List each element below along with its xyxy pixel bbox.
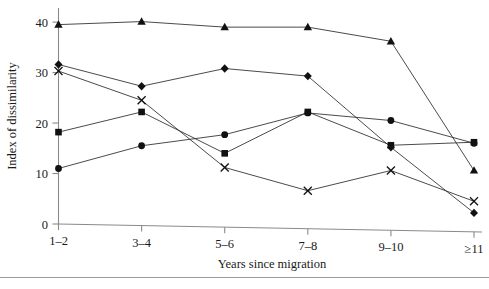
series-diamond-marker — [470, 209, 478, 217]
figure-container: 010203040 1–23–45–67–89–10≥11 Index of d… — [0, 0, 489, 289]
series-square-marker — [388, 142, 395, 149]
x-tick-label: ≥11 — [465, 242, 484, 256]
series-triangle-marker — [137, 17, 145, 24]
y-tick-label: 10 — [36, 167, 49, 181]
series-circle-marker — [138, 142, 145, 149]
y-tick-label: 40 — [36, 16, 49, 30]
x-axis-title: Years since migration — [218, 257, 327, 271]
y-tick-labels: 010203040 — [36, 16, 49, 232]
series-triangle-marker — [54, 20, 62, 27]
series-triangle-marker — [470, 166, 478, 173]
series-circle-marker — [221, 131, 228, 138]
x-tick-label: 9–10 — [378, 240, 403, 254]
series-circle-line — [59, 113, 475, 169]
series-circle-marker — [304, 110, 311, 117]
series-triangle-line — [59, 22, 475, 171]
series-square-line — [59, 112, 475, 153]
y-axis-title: Index of dissimilarity — [5, 61, 19, 169]
series-circle-marker — [388, 117, 395, 124]
y-tick-label: 30 — [36, 66, 49, 80]
series-square-marker — [55, 129, 62, 136]
line-chart: 010203040 1–23–45–67–89–10≥11 Index of d… — [0, 0, 489, 289]
y-tick-label: 20 — [36, 117, 49, 131]
x-tick-label: 7–8 — [298, 239, 317, 253]
x-tick-label: 3–4 — [132, 236, 152, 250]
series-lines-group — [59, 22, 475, 213]
series-triangle-marker — [304, 23, 312, 30]
caption-divider — [0, 277, 489, 278]
series-cross-marker — [221, 163, 229, 171]
series-diamond-marker — [138, 82, 146, 90]
series-square-marker — [221, 150, 228, 157]
x-axis-line — [59, 224, 483, 232]
series-circle-marker — [55, 165, 62, 172]
x-tick-labels: 1–23–45–67–89–10≥11 — [49, 234, 483, 256]
series-square-marker — [138, 109, 145, 116]
series-circle-marker — [471, 140, 478, 147]
caption-fragment — [2, 279, 302, 289]
y-tick-marks — [53, 22, 59, 224]
series-markers-group — [54, 17, 478, 217]
y-tick-label: 0 — [42, 218, 48, 232]
series-cross-marker — [470, 197, 478, 205]
series-cross-line — [59, 71, 475, 201]
series-cross-marker — [304, 187, 312, 195]
series-diamond-marker — [221, 64, 229, 72]
series-diamond-line — [59, 65, 475, 213]
x-tick-label: 5–6 — [215, 237, 234, 251]
series-cross-marker — [138, 96, 146, 104]
series-cross-marker — [387, 166, 395, 174]
x-tick-label: 1–2 — [49, 234, 68, 248]
